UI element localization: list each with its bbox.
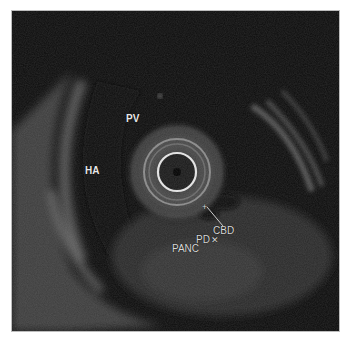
ultrasound-image: PV HA + CBD PD ✕ PANC: [12, 11, 339, 331]
label-panc: PANC: [172, 244, 199, 254]
ultrasound-scan-graphic: [12, 11, 339, 331]
cbd-marker-icon: +: [202, 202, 207, 212]
label-ha: HA: [85, 166, 99, 176]
label-pv: PV: [126, 114, 139, 124]
pd-marker-icon: ✕: [211, 235, 219, 245]
